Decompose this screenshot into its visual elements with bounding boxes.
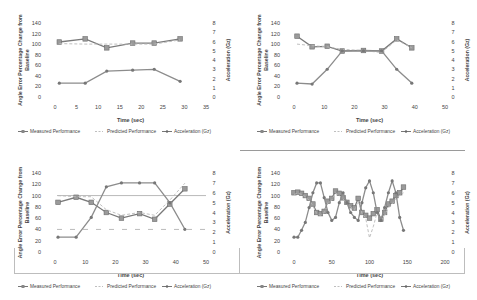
y2-tick-label: 7 <box>212 180 215 186</box>
measured-marker <box>367 216 372 221</box>
y-axis-right-title: Acceleration (Gz) <box>464 191 470 234</box>
acceleration-marker <box>326 211 329 214</box>
acceleration-marker-icon <box>405 130 407 132</box>
acceleration-marker <box>364 186 367 189</box>
y2-tick-label: 7 <box>451 180 454 186</box>
y2-tick-label: 0 <box>212 94 215 100</box>
acceleration-marker <box>308 206 311 209</box>
y2-tick-label: 1 <box>451 239 454 245</box>
y2-tick-label: 5 <box>212 48 215 54</box>
chart-2: 02040608010012014001234567801020304050Ti… <box>239 0 477 145</box>
y-axis-left: 020406080100120140 <box>32 170 41 255</box>
y-tick-label: 140 <box>32 170 41 176</box>
y-tick-label: 60 <box>274 62 280 68</box>
measured-marker <box>119 216 124 221</box>
y-axis-left-title: Angle Error Percentage Change fromBaseli… <box>17 166 30 258</box>
acceleration-marker <box>362 49 365 52</box>
y2-tick-label: 7 <box>212 29 215 35</box>
y2-tick-label: 8 <box>212 20 215 26</box>
x-axis: 05101520253035 <box>53 104 209 110</box>
y-tick-label: 40 <box>274 226 280 232</box>
svg-text:Angle Error Percentage Change: Angle Error Percentage Change from <box>17 14 23 106</box>
measured-marker <box>178 37 183 42</box>
acceleration-marker <box>311 191 314 194</box>
y2-tick-label: 2 <box>451 76 454 82</box>
acceleration-marker <box>319 181 322 184</box>
chart-3-svg: 02040608010012014001234567801020304050Ti… <box>0 150 238 300</box>
acceleration-marker <box>398 216 401 219</box>
y2-tick-label: 3 <box>212 219 215 225</box>
acceleration-marker <box>323 196 326 199</box>
chart-4: 020406080100120140012345678050100150200T… <box>239 150 477 300</box>
y-tick-label: 80 <box>274 204 280 210</box>
acceleration-marker <box>153 181 156 184</box>
y-tick-label: 40 <box>274 73 280 79</box>
x-tick-label: 30 <box>181 104 187 110</box>
y2-tick-label: 4 <box>451 57 454 63</box>
measured-marker-icon <box>22 285 25 288</box>
measured-marker <box>183 187 188 192</box>
series-acceleration-gz <box>56 181 186 239</box>
y2-tick-label: 1 <box>212 239 215 245</box>
acceleration-marker <box>341 191 344 194</box>
y2-tick-label: 5 <box>451 48 454 54</box>
acceleration-marker <box>138 181 141 184</box>
acceleration-marker <box>330 219 333 222</box>
acceleration-marker <box>345 201 348 204</box>
y-tick-label: 100 <box>32 193 41 199</box>
measured-marker <box>137 211 142 216</box>
acceleration-marker <box>300 229 303 232</box>
legend: Measured PerformancePredicted Performanc… <box>18 284 211 289</box>
legend-label: Acceleration (Gz) <box>174 284 211 289</box>
acceleration-marker <box>375 211 378 214</box>
y-tick-label: 100 <box>32 41 41 47</box>
y2-tick-label: 4 <box>212 57 215 63</box>
y2-tick-label: 6 <box>451 190 454 196</box>
series-acceleration-gz <box>58 68 182 85</box>
x-tick-label: 10 <box>321 104 327 110</box>
x-tick-label: 0 <box>53 104 56 110</box>
svg-text:Angle Error Percentage Change: Angle Error Percentage Change from <box>256 14 262 106</box>
measured-marker <box>152 41 157 46</box>
y2-tick-label: 6 <box>212 39 215 45</box>
y-axis-right-title: Acceleration (Gz) <box>225 38 231 81</box>
acceleration-marker <box>410 82 413 85</box>
legend-label: Acceleration (Gz) <box>413 284 450 289</box>
x-tick-label: 25 <box>160 104 166 110</box>
acceleration-marker <box>380 49 383 52</box>
measured-marker <box>295 34 300 39</box>
y-axis-left: 020406080100120140 <box>32 20 41 100</box>
y-axis-right: 012345678 <box>212 20 215 100</box>
series-acceleration-gz <box>292 179 405 238</box>
measured-marker <box>325 44 330 49</box>
acceleration-marker-icon <box>166 130 168 132</box>
acceleration-marker <box>311 82 314 85</box>
acceleration-marker <box>179 80 182 83</box>
chart-4-svg: 020406080100120140012345678050100150200T… <box>239 150 477 300</box>
x-tick-label: 40 <box>412 104 418 110</box>
measured-marker-icon <box>261 285 264 288</box>
y2-tick-label: 4 <box>212 210 215 216</box>
legend-label: Predicted Performance <box>107 129 156 134</box>
y-tick-label: 40 <box>35 73 41 79</box>
y-tick-label: 0 <box>38 94 41 100</box>
measured-marker <box>409 46 414 51</box>
series-measured-performance <box>56 187 187 222</box>
legend-label: Predicted Performance <box>346 284 395 289</box>
acceleration-marker <box>338 201 341 204</box>
acceleration-marker <box>295 82 298 85</box>
measured-marker <box>104 210 109 215</box>
y-axis-right: 012345678 <box>451 170 454 255</box>
x-tick-label: 50 <box>442 104 448 110</box>
svg-text:Baseline: Baseline <box>263 202 269 223</box>
svg-text:Baseline: Baseline <box>24 202 30 223</box>
acceleration-marker <box>353 216 356 219</box>
y-tick-label: 20 <box>274 83 280 89</box>
y-tick-label: 140 <box>271 20 280 26</box>
y2-tick-label: 2 <box>212 229 215 235</box>
acceleration-marker <box>372 191 375 194</box>
y-tick-label: 120 <box>271 181 280 187</box>
legend-label: Acceleration (Gz) <box>174 129 211 134</box>
acceleration-marker <box>183 228 186 231</box>
x-tick-label: 35 <box>203 104 209 110</box>
